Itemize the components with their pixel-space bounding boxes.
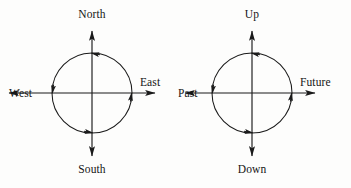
label-east: East bbox=[140, 76, 160, 89]
spacetime-vector-canvas bbox=[176, 0, 351, 188]
label-up: Up bbox=[245, 8, 259, 21]
label-south: South bbox=[78, 163, 105, 176]
label-west: West bbox=[9, 87, 32, 100]
label-future: Future bbox=[300, 76, 331, 89]
label-north: North bbox=[78, 8, 105, 21]
label-past: Past bbox=[178, 87, 198, 100]
time-axes-diagram: Up Down Past Future bbox=[176, 0, 351, 188]
label-down: Down bbox=[238, 163, 267, 176]
spatial-axes-diagram: North South West East bbox=[0, 0, 175, 188]
figure-root: North South West East Up bbox=[0, 0, 351, 188]
